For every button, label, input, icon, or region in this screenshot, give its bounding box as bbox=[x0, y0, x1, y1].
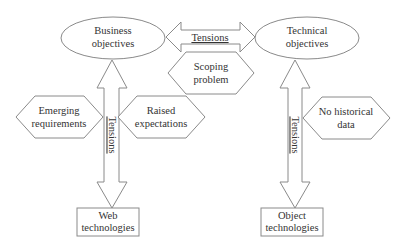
node-business-objectives: Business objectives bbox=[61, 17, 165, 59]
no-historical-data-line1: No historical bbox=[319, 106, 374, 117]
tension-arrow-horizontal: Tensions bbox=[166, 22, 255, 52]
node-object-technologies: Object technologies bbox=[261, 208, 323, 236]
web-technologies-line2: technologies bbox=[81, 222, 134, 233]
technical-objectives-line1: Technical bbox=[287, 25, 328, 36]
web-technologies-line1: Web bbox=[99, 210, 118, 221]
emerging-requirements-line2: requirements bbox=[32, 118, 87, 129]
node-scoping-problem: Scoping problem bbox=[168, 52, 254, 94]
object-technologies-line1: Object bbox=[278, 210, 306, 221]
tension-label-left: Tensions bbox=[107, 116, 118, 153]
node-raised-expectations: Raised expectations bbox=[118, 96, 205, 138]
emerging-requirements-line1: Emerging bbox=[38, 105, 80, 116]
tension-arrow-right-vertical: Tensions bbox=[280, 60, 310, 208]
scoping-problem-line2: problem bbox=[194, 74, 229, 85]
raised-expectations-line1: Raised bbox=[147, 105, 176, 116]
no-historical-data-line2: data bbox=[337, 119, 355, 130]
business-objectives-line1: Business bbox=[94, 25, 131, 36]
tension-label-horizontal: Tensions bbox=[191, 32, 228, 43]
tension-label-right: Tensions bbox=[290, 116, 301, 153]
object-technologies-line2: technologies bbox=[265, 222, 318, 233]
node-emerging-requirements: Emerging requirements bbox=[16, 96, 103, 138]
raised-expectations-line2: expectations bbox=[135, 118, 187, 129]
diagram-canvas: Tensions Tensions Tensions Business obje… bbox=[0, 0, 409, 250]
node-no-historical-data: No historical data bbox=[303, 97, 390, 139]
scoping-problem-line1: Scoping bbox=[194, 61, 229, 72]
technical-objectives-line2: objectives bbox=[286, 38, 329, 49]
node-web-technologies: Web technologies bbox=[77, 208, 139, 236]
tension-arrow-left-vertical: Tensions bbox=[97, 60, 127, 208]
node-technical-objectives: Technical objectives bbox=[255, 17, 359, 59]
business-objectives-line2: objectives bbox=[92, 38, 135, 49]
